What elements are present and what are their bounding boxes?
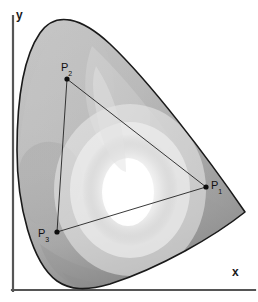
- y-axis-label: y: [16, 9, 23, 21]
- point-label-p1: P1: [211, 180, 222, 193]
- point-label-p3-subscript: 3: [45, 236, 49, 243]
- point-label-p2-subscript: 2: [68, 70, 72, 77]
- point-p2-marker: [64, 76, 69, 81]
- point-label-p1-subscript: 1: [218, 188, 222, 195]
- point-p1-marker: [203, 184, 208, 189]
- point-p3-marker: [54, 229, 59, 234]
- chromaticity-diagram-figure: y x P1 P2 P3: [0, 0, 258, 302]
- x-axis-label: x: [232, 266, 239, 278]
- point-label-p2: P2: [61, 62, 72, 75]
- point-label-p3: P3: [38, 228, 49, 241]
- diagram-canvas: [0, 0, 258, 302]
